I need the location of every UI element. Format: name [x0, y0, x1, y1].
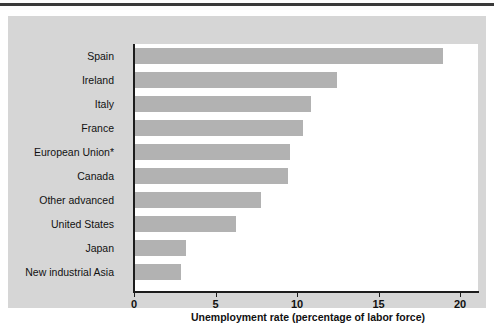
bar-category-label: New industrial Asia	[0, 264, 114, 280]
bar	[135, 96, 311, 112]
bar-category-label: Spain	[0, 48, 114, 64]
bar	[135, 216, 236, 232]
x-axis-tick-label: 20	[440, 298, 480, 310]
bar-row: Other advanced	[8, 188, 486, 212]
bar-category-label: European Union*	[0, 144, 114, 160]
x-axis-tick	[379, 292, 380, 297]
x-axis-title: Unemployment rate (percentage of labor f…	[134, 311, 482, 323]
bar-category-label: Canada	[0, 168, 114, 184]
bar-row: New industrial Asia	[8, 260, 486, 284]
bar-category-label: France	[0, 120, 114, 136]
bar-category-label: Japan	[0, 240, 114, 256]
bar-category-label: Ireland	[0, 72, 114, 88]
bar	[135, 120, 303, 136]
bar-row: France	[8, 116, 486, 140]
bar-row: Japan	[8, 236, 486, 260]
bar-category-label: United States	[0, 216, 114, 232]
bar-row: Ireland	[8, 68, 486, 92]
x-axis-tick	[216, 292, 217, 297]
x-axis-tick-label: 5	[196, 298, 236, 310]
bar	[135, 192, 261, 208]
x-axis-tick-label: 0	[114, 298, 154, 310]
bar-row: European Union*	[8, 140, 486, 164]
x-axis-tick-label: 10	[277, 298, 317, 310]
bar	[135, 48, 443, 64]
x-axis-tick-label: 15	[359, 298, 399, 310]
top-rule-divider	[0, 3, 494, 6]
x-axis-tick	[297, 292, 298, 297]
chart-panel: SpainIrelandItalyFranceEuropean Union*Ca…	[8, 16, 486, 308]
bar	[135, 168, 288, 184]
bar-category-label: Other advanced	[0, 192, 114, 208]
bar-row: United States	[8, 212, 486, 236]
x-axis-line	[133, 291, 479, 293]
bar	[135, 264, 181, 280]
bar-category-label: Italy	[0, 96, 114, 112]
x-axis-tick	[460, 292, 461, 297]
bar	[135, 144, 290, 160]
x-axis-tick	[134, 292, 135, 297]
bar	[135, 72, 337, 88]
bar-row: Canada	[8, 164, 486, 188]
bar-row: Spain	[8, 44, 486, 68]
bar	[135, 240, 186, 256]
bar-row: Italy	[8, 92, 486, 116]
